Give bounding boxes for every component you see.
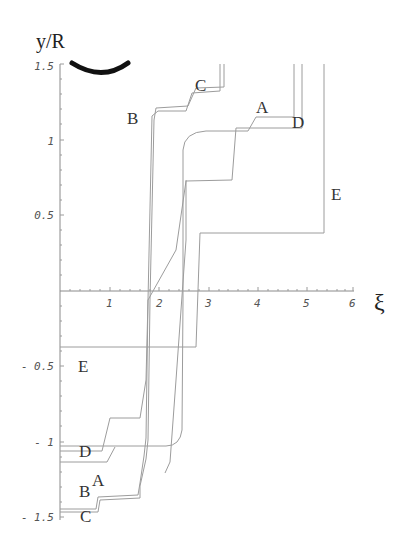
y-axis-label: y/R [36, 30, 66, 53]
y-tick-label-1.5: 1.5 [34, 60, 54, 73]
x-tick-label-4: 4 [254, 297, 261, 310]
label-bottom-A: A [92, 471, 105, 490]
y-tick-label-neg-0.5: - 0.5 [21, 360, 54, 373]
x-ticks [70, 287, 353, 291]
x-tick-label-1: 1 [106, 297, 113, 310]
label-bottom-E: E [78, 357, 88, 376]
curve-A [60, 64, 294, 446]
label-bottom-B: B [79, 482, 90, 501]
x-tick-label-3: 3 [204, 297, 212, 310]
y-tick-label-neg-1: - 1 [34, 436, 54, 449]
y-tick-label-1: 1 [47, 135, 54, 148]
y-tick-label-0.5: 0.5 [34, 209, 54, 222]
label-top-A: A [256, 98, 269, 117]
arc-decoration [72, 63, 128, 73]
label-bottom-D: D [79, 442, 91, 461]
label-top-C: C [195, 76, 206, 95]
curve-D [60, 64, 302, 451]
x-tick-label-6: 6 [349, 297, 356, 310]
x-tick-label-5: 5 [303, 297, 310, 310]
y-tick-label-neg-1.5: - 1.5 [21, 511, 54, 524]
label-top-D: D [292, 113, 304, 132]
curve-E [60, 64, 324, 347]
x-tick-label-2: 2 [156, 297, 163, 310]
chart: 1 2 3 4 5 6 1.5 1 0.5 - 0.5 - 1 - 1.5 y/… [0, 0, 408, 544]
x-axis-label: ξ [374, 289, 385, 315]
label-bottom-C: C [80, 507, 91, 526]
label-top-E: E [331, 185, 341, 204]
label-top-B: B [127, 109, 138, 128]
